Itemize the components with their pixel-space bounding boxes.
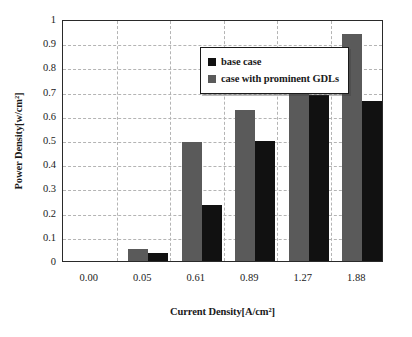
y-tick-label: 0.8 [0,61,56,75]
x-tick-label: 0.00 [59,272,119,283]
gridline-vertical [117,21,118,261]
legend-swatch-base-case [208,58,216,66]
bar [128,249,148,261]
gridline-horizontal [63,239,382,240]
x-tick-label: 1.27 [273,272,333,283]
legend-label-base-case: base case [221,56,261,67]
gridline-horizontal [63,166,382,167]
bar [255,141,275,261]
bar [362,101,382,261]
gridline-horizontal [63,142,382,143]
bar [148,253,168,261]
legend-item-base-case: base case [208,53,339,70]
y-tick-label: 0.4 [0,158,56,172]
legend-item-prominent-gdls: case with prominent GDLs [208,70,339,87]
y-tick-label: 0.2 [0,207,56,221]
x-tick-label: 0.89 [219,272,279,283]
y-tick-label: 0.6 [0,110,56,124]
y-tick-label: 0.7 [0,86,56,100]
y-tick-label: 0.3 [0,182,56,196]
bar [309,95,329,261]
legend-swatch-prominent-gdls [208,75,216,83]
plot-area: base case case with prominent GDLs [62,20,383,262]
x-tick-label: 0.05 [112,272,172,283]
gridline-vertical [170,21,171,261]
gridline-horizontal [63,190,382,191]
y-tick-label: 0 [0,255,56,269]
y-tick-label: 0.1 [0,231,56,245]
y-tick-label: 1 [0,13,56,27]
x-tick-label: 0.61 [166,272,226,283]
bar [182,142,202,261]
x-tick-label: 1.88 [326,272,386,283]
chart-figure: Power Density[w/cm²] Current Density[A/c… [0,0,412,337]
gridline-horizontal [63,118,382,119]
chart-legend: base case case with prominent GDLs [200,47,349,94]
bar [202,205,222,261]
y-tick-label: 0.5 [0,134,56,148]
y-tick-label: 0.9 [0,37,56,51]
bar [235,110,255,261]
legend-label-prominent-gdls: case with prominent GDLs [221,73,339,84]
bar [289,77,309,261]
x-axis-title: Current Density[A/cm²] [62,306,383,317]
gridline-horizontal [63,215,382,216]
